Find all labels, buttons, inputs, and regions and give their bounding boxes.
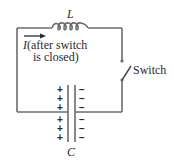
minus-sign: − (79, 132, 85, 143)
current-annotation-line2: is closed) (33, 50, 79, 64)
capacitor-negative-charges: − − − − − − (79, 84, 85, 143)
minus-sign: − (79, 102, 85, 113)
switch-top-contact (120, 59, 123, 62)
switch-blade (122, 66, 131, 80)
capacitor-label: C (67, 145, 76, 159)
inductor-coil-icon (52, 23, 88, 30)
switch-label: Switch (133, 63, 166, 77)
plus-sign: + (57, 132, 63, 143)
plus-sign: + (57, 102, 63, 113)
capacitor-icon (68, 85, 75, 142)
capacitor-positive-charges: + + + + + + (57, 84, 63, 143)
switch-icon (120, 59, 131, 81)
inductor-label: L (66, 7, 74, 21)
lc-circuit-diagram: L I(after switch is closed) Switch + + +… (0, 0, 174, 165)
